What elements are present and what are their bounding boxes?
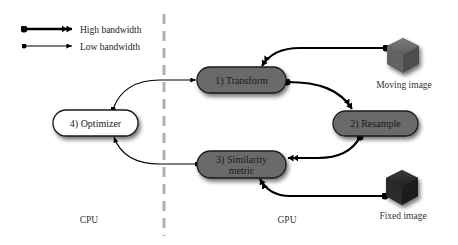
node-optimizer: 4) Optimizer: [53, 110, 138, 136]
moving-image-cube-icon: [387, 38, 419, 73]
resample-label: 2) Resample: [350, 118, 401, 130]
cpu-region-label: CPU: [80, 215, 99, 225]
edge-moving-to-transform: [262, 48, 386, 66]
legend-low-label: Low bandwidth: [80, 42, 140, 52]
edge-resample-to-similarity: [288, 137, 360, 158]
moving-image: Moving image: [376, 38, 432, 90]
legend-high-bandwidth: High bandwidth: [24, 25, 142, 35]
edge-similarity-to-optimizer: [114, 137, 197, 164]
edge-transform-to-resample: [287, 82, 352, 109]
registration-pipeline-diagram: High bandwidth Low bandwidth 1) Transfor…: [0, 0, 458, 245]
similarity-label-line2: metric: [229, 165, 255, 176]
transform-label: 1) Transform: [215, 75, 268, 87]
legend-high-label: High bandwidth: [80, 25, 142, 35]
node-resample: 2) Resample: [333, 111, 418, 136]
legend: High bandwidth Low bandwidth: [24, 25, 142, 52]
moving-image-label: Moving image: [376, 80, 432, 90]
fixed-image: Fixed image: [379, 170, 426, 221]
legend-low-bandwidth: Low bandwidth: [24, 42, 140, 52]
node-transform: 1) Transform: [197, 67, 286, 93]
fixed-image-label: Fixed image: [379, 211, 426, 221]
gpu-region-label: GPU: [277, 215, 296, 225]
similarity-label-line1: 3) Similarity: [216, 154, 267, 166]
optimizer-label: 4) Optimizer: [70, 118, 122, 130]
edge-fixed-to-similarity: [260, 179, 385, 196]
fixed-image-cube-icon: [386, 170, 418, 205]
node-similarity-metric: 3) Similarity metric: [197, 151, 286, 178]
edge-optimizer-to-transform: [113, 80, 196, 109]
